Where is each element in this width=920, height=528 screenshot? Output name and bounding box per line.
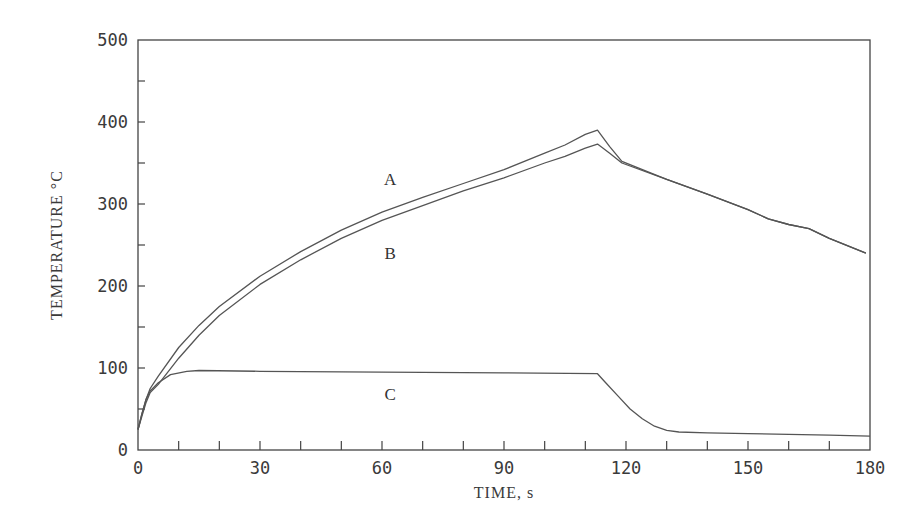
plot-frame <box>138 40 870 450</box>
x-tick-label: 150 <box>733 458 764 478</box>
y-tick-label: 500 <box>97 30 128 50</box>
x-tick-label: 120 <box>611 458 642 478</box>
plot-border <box>138 40 870 450</box>
curve-a <box>138 130 866 429</box>
x-axis-title: TIME, s <box>474 484 534 501</box>
curve-c <box>138 371 870 437</box>
x-axis-ticks: 0306090120150180 <box>133 441 885 478</box>
x-tick-label: 180 <box>855 458 886 478</box>
y-tick-label: 300 <box>97 194 128 214</box>
x-tick-label: 60 <box>372 458 392 478</box>
curve-label-b: B <box>384 244 395 263</box>
x-tick-label: 30 <box>250 458 270 478</box>
x-tick-label: 0 <box>133 458 143 478</box>
curve-label-a: A <box>384 170 397 189</box>
curves <box>138 130 870 436</box>
temperature-time-chart: 0306090120150180 0100200300400500 TIME, … <box>0 0 920 528</box>
y-tick-label: 100 <box>97 358 128 378</box>
y-tick-label: 0 <box>118 440 128 460</box>
y-tick-label: 400 <box>97 112 128 132</box>
y-tick-label: 200 <box>97 276 128 296</box>
x-tick-label: 90 <box>494 458 514 478</box>
y-axis-title: TEMPERATURE °C <box>48 170 65 320</box>
curve-b <box>138 144 866 429</box>
curve-label-c: C <box>384 385 395 404</box>
